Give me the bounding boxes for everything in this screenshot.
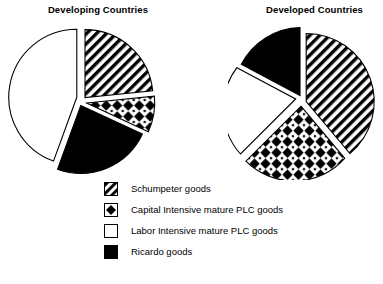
legend-label-labor-intensive: Labor Intensive mature PLC goods: [131, 225, 278, 236]
chart-title-developed: Developed Countries: [252, 4, 377, 15]
legend-swatch-ricardo-icon: [104, 245, 118, 259]
pie-chart-developing: [8, 20, 168, 175]
pie-slice-developing-schumpeter: [85, 30, 153, 98]
legend: Schumpeter goods Capital Intensive matur…: [104, 178, 369, 262]
legend-item-labor-intensive: Labor Intensive mature PLC goods: [104, 220, 369, 241]
chart-title-developing: Developing Countries: [33, 4, 163, 15]
legend-swatch-capital-intensive-icon: [104, 203, 118, 217]
legend-item-schumpeter: Schumpeter goods: [104, 178, 369, 199]
legend-label-ricardo: Ricardo goods: [131, 246, 192, 257]
legend-item-capital-intensive: Capital Intensive mature PLC goods: [104, 199, 369, 220]
legend-label-schumpeter: Schumpeter goods: [131, 183, 211, 194]
legend-item-ricardo: Ricardo goods: [104, 241, 369, 262]
pie-slice-developing-labor-intensive: [9, 29, 77, 161]
pie-slices-developing: [9, 29, 155, 173]
legend-swatch-labor-intensive-icon: [104, 224, 118, 238]
pie-chart-developed: [228, 20, 383, 180]
legend-label-capital-intensive: Capital Intensive mature PLC goods: [131, 204, 283, 215]
legend-swatch-schumpeter-icon: [104, 182, 118, 196]
pie-slices-developed: [228, 28, 374, 180]
pie-chart-figure: Developing Countries Developed Countries…: [0, 0, 383, 284]
